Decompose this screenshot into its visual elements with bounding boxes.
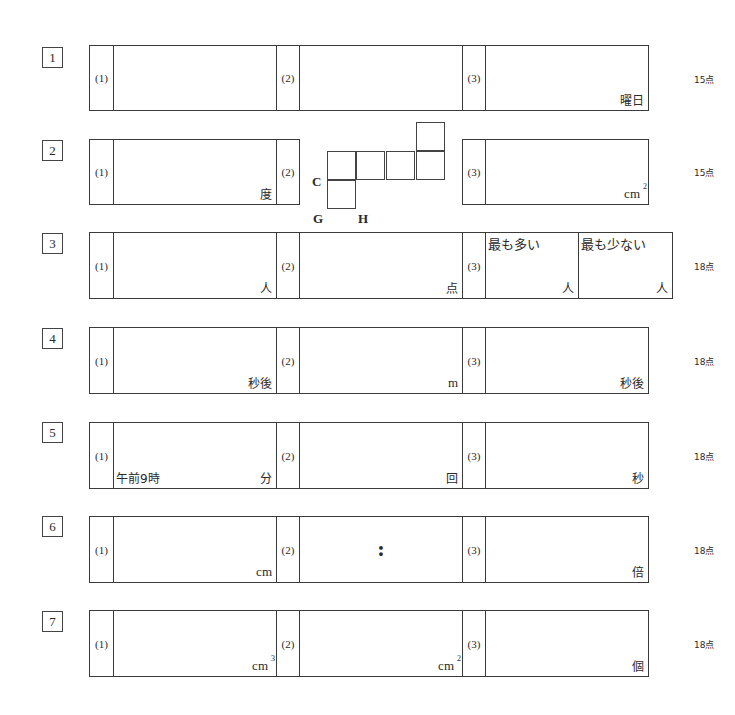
answer-box-7-1[interactable]: cm 3 bbox=[113, 610, 277, 677]
part-label-4-2: (2) bbox=[276, 327, 300, 394]
part-label-6-1: (1) bbox=[89, 516, 114, 583]
answer-row-4: (1) 秒後 (2) m (3) 秒後 bbox=[89, 327, 649, 394]
unit-label: 度 bbox=[260, 185, 272, 202]
answer-box-2-1[interactable]: 度 bbox=[113, 139, 277, 205]
unit-label: cm bbox=[438, 658, 454, 674]
question-number-6: 6 bbox=[42, 516, 63, 537]
unit-label: 回 bbox=[446, 469, 458, 486]
unit-label: 人 bbox=[656, 279, 668, 296]
points-3: 18点 bbox=[694, 260, 714, 273]
net-square bbox=[327, 151, 356, 180]
answer-row-5: (1) 午前9時 分 (2) 回 (3) 秒 bbox=[89, 422, 649, 489]
answer-box-5-3[interactable]: 秒 bbox=[485, 422, 649, 489]
question-number-5: 5 bbox=[42, 422, 63, 443]
answer-box-3-1[interactable]: 人 bbox=[113, 232, 277, 299]
unit-label: 点 bbox=[446, 279, 458, 296]
vertex-label-g: G bbox=[313, 211, 323, 227]
unit-label: 人 bbox=[562, 279, 574, 296]
points-4: 18点 bbox=[694, 355, 714, 368]
unit-superscript: 2 bbox=[643, 182, 647, 191]
unit-label: 秒後 bbox=[620, 374, 644, 391]
vertex-label-c: C bbox=[312, 174, 321, 190]
unit-label: 人 bbox=[260, 279, 272, 296]
answer-box-4-3[interactable]: 秒後 bbox=[485, 327, 649, 394]
answer-box-5-2[interactable]: 回 bbox=[299, 422, 463, 489]
answer-box-3-2[interactable]: 点 bbox=[299, 232, 463, 299]
part-label-1-3: (3) bbox=[462, 45, 486, 111]
answer-row-6: (1) cm (2) : (3) 倍 bbox=[89, 516, 649, 583]
answer-box-1-1[interactable] bbox=[113, 45, 277, 111]
question-number-4: 4 bbox=[42, 328, 63, 349]
part-label-4-3: (3) bbox=[462, 327, 486, 394]
unit-label: 曜日 bbox=[620, 91, 644, 108]
part-label-6-2: (2) bbox=[276, 516, 300, 583]
points-7: 18点 bbox=[694, 638, 714, 651]
question-number-1: 1 bbox=[42, 47, 63, 68]
part-label-2-3: (3) bbox=[462, 139, 486, 205]
answer-box-3-3-least[interactable]: 最も少ない 人 bbox=[578, 232, 673, 299]
part-label-5-1: (1) bbox=[89, 422, 114, 489]
part-label-3-2: (2) bbox=[276, 232, 300, 299]
points-5: 18点 bbox=[694, 450, 714, 463]
part-label-1-1: (1) bbox=[89, 45, 114, 111]
unit-label: 個 bbox=[632, 657, 644, 674]
unit-superscript: 2 bbox=[457, 654, 461, 663]
points-2: 15点 bbox=[694, 166, 714, 179]
net-square bbox=[386, 151, 415, 180]
unit-label: cm bbox=[624, 186, 640, 202]
part-label-7-3: (3) bbox=[462, 610, 486, 677]
answer-box-6-1[interactable]: cm bbox=[113, 516, 277, 583]
points-1: 15点 bbox=[694, 73, 714, 86]
ratio-colon: : bbox=[300, 537, 462, 561]
unit-label: 秒後 bbox=[248, 374, 272, 391]
unit-superscript: 3 bbox=[271, 654, 275, 663]
vertex-label-h: H bbox=[358, 211, 368, 227]
unit-label: 倍 bbox=[632, 563, 644, 580]
caption-most: 最も多い bbox=[488, 234, 540, 253]
part-label-7-1: (1) bbox=[89, 610, 114, 677]
part-label-6-3: (3) bbox=[462, 516, 486, 583]
answer-box-1-3[interactable]: 曜日 bbox=[485, 45, 649, 111]
answer-box-6-3[interactable]: 倍 bbox=[485, 516, 649, 583]
prefix-label: 午前9時 bbox=[116, 469, 160, 486]
answer-box-6-2[interactable]: : bbox=[299, 516, 463, 583]
net-square bbox=[416, 151, 445, 180]
unit-label: 分 bbox=[260, 469, 272, 486]
points-6: 18点 bbox=[694, 544, 714, 557]
answer-row-7: (1) cm 3 (2) cm 2 (3) 個 bbox=[89, 610, 649, 677]
part-label-5-3: (3) bbox=[462, 422, 486, 489]
answer-row-3: (1) 人 (2) 点 (3) 最も多い 人 最も少ない 人 bbox=[89, 232, 673, 299]
caption-least: 最も少ない bbox=[581, 234, 646, 253]
answer-box-1-2[interactable] bbox=[299, 45, 463, 111]
answer-box-2-3[interactable]: cm 2 bbox=[485, 139, 649, 205]
unit-label: 秒 bbox=[632, 469, 644, 486]
answer-box-7-2[interactable]: cm 2 bbox=[299, 610, 463, 677]
answer-box-5-1[interactable]: 午前9時 分 bbox=[113, 422, 277, 489]
part-label-3-3: (3) bbox=[462, 232, 486, 299]
part-label-5-2: (2) bbox=[276, 422, 300, 489]
unit-label: cm bbox=[252, 658, 268, 674]
net-square bbox=[327, 180, 356, 209]
answer-box-4-2[interactable]: m bbox=[299, 327, 463, 394]
answer-box-3-3-most[interactable]: 最も多い 人 bbox=[485, 232, 579, 299]
unit-label: m bbox=[448, 375, 458, 391]
part-label-4-1: (1) bbox=[89, 327, 114, 394]
question-number-7: 7 bbox=[42, 611, 63, 632]
net-square bbox=[356, 151, 385, 180]
answer-box-4-1[interactable]: 秒後 bbox=[113, 327, 277, 394]
net-square bbox=[416, 122, 445, 151]
part-label-3-1: (1) bbox=[89, 232, 114, 299]
part-label-7-2: (2) bbox=[276, 610, 300, 677]
answer-row-1: (1) (2) (3) 曜日 bbox=[89, 45, 649, 111]
unit-label: cm bbox=[256, 564, 272, 580]
question-number-3: 3 bbox=[42, 233, 63, 254]
question-number-2: 2 bbox=[42, 140, 63, 161]
part-label-2-1: (1) bbox=[89, 139, 114, 205]
answer-box-7-3[interactable]: 個 bbox=[485, 610, 649, 677]
part-label-2-2: (2) bbox=[276, 139, 300, 205]
part-label-1-2: (2) bbox=[276, 45, 300, 111]
